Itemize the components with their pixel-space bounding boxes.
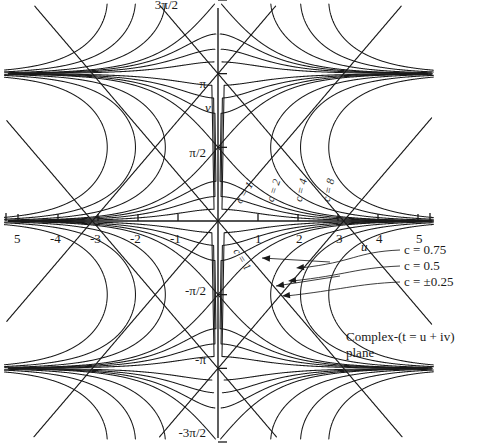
- x-axis-label: u: [361, 240, 368, 253]
- y-tick-label-pi: π: [199, 77, 206, 90]
- y-axis-label: v: [205, 101, 211, 114]
- figure-caption-line-2: plane: [346, 346, 374, 361]
- x-tick-label-minus-1: -1: [170, 232, 181, 245]
- x-tick-label-1: 1: [255, 232, 262, 245]
- figure-complex-t-plane: 3π/2 π π/2 -π/2 -π -3π/2 5 -4 -3 -2 -1 1…: [0, 0, 477, 443]
- x-tick-label-4: 4: [376, 232, 383, 245]
- legend-entry-c-0-5: c = 0.5: [404, 259, 440, 272]
- plot-canvas: [0, 0, 477, 443]
- y-tick-label-negative-pi: -π: [195, 353, 206, 366]
- figure-caption-line-1: Complex-(t = u + iv): [346, 330, 455, 345]
- y-tick-label-negative-3pi-over-2: -3π/2: [178, 426, 206, 439]
- x-tick-label-3: 3: [336, 232, 343, 245]
- x-tick-label-2: 2: [296, 232, 303, 245]
- y-tick-label-negative-pi-over-2: -π/2: [185, 284, 206, 297]
- x-tick-label-minus-4: -4: [50, 232, 61, 245]
- legend-entry-c-0-75: c = 0.75: [404, 243, 446, 256]
- x-tick-label-minus-3: -3: [90, 232, 101, 245]
- legend-leader-lines: [262, 250, 400, 298]
- x-tick-label-minus-5: 5: [14, 232, 21, 245]
- y-tick-label-pi-over-2: π/2: [189, 146, 206, 159]
- legend-entry-c-plus-minus-0-25: c = ±0.25: [404, 275, 454, 288]
- axes-group: [6, 0, 434, 442]
- x-tick-label-minus-2: -2: [130, 232, 141, 245]
- y-tick-label-3pi-over-2: 3π/2: [155, 0, 178, 11]
